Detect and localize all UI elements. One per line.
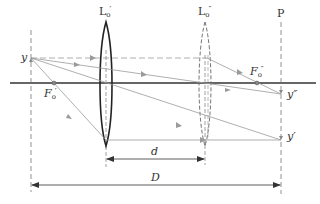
focus1-point [52,81,56,85]
plane-p-label: P [277,8,284,19]
focus1-label: Fo′ [44,88,57,99]
lens2-label: Lo″ [198,6,212,17]
focus2-point [255,81,259,85]
object-label: y [21,52,27,63]
rays [31,58,281,140]
image1-label: y′ [287,131,296,142]
dimension-d-label: d [151,146,158,157]
dimension-D-label: D [151,172,160,183]
focus2-label: Fo″ [250,66,264,77]
lens1-label: Lo′ [99,6,111,17]
ray-arrows [66,55,243,143]
image2-label: y″ [287,89,297,100]
